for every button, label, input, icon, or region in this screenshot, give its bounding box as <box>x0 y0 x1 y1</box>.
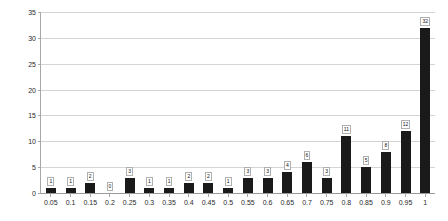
bar-slot: 8 <box>376 12 396 193</box>
bar-slot: 3 <box>238 12 258 193</box>
x-axis-tick <box>228 193 229 197</box>
bar-value-label: 3 <box>323 167 330 176</box>
x-axis-tick-label: 0.9 <box>376 199 396 213</box>
x-axis-tick <box>188 193 189 197</box>
bar-value-label: 3 <box>244 167 251 176</box>
bar-value-label: 0 <box>107 182 114 191</box>
x-axis-tick-label: 0.1 <box>61 199 81 213</box>
bar-value-label: 3 <box>126 167 133 176</box>
bar <box>243 178 253 194</box>
x-axis-tick-slot <box>140 193 160 197</box>
x-axis-tick <box>129 193 130 197</box>
x-axis-ticks <box>41 193 435 197</box>
bar-slot: 1 <box>218 12 238 193</box>
y-axis-tick-label: 35 <box>28 9 36 16</box>
x-axis-tick <box>70 193 71 197</box>
bar-value-label: 3 <box>264 167 271 176</box>
x-axis-tick-slot <box>415 193 435 197</box>
bar-value-label: 2 <box>205 172 212 181</box>
bar-value-label: 8 <box>382 141 389 150</box>
bar-slot: 2 <box>80 12 100 193</box>
bar <box>203 183 213 193</box>
bar-slot: 3 <box>120 12 140 193</box>
bar <box>322 178 332 194</box>
bar-value-label: 1 <box>67 177 74 186</box>
x-axis-tick-slot <box>277 193 297 197</box>
x-axis-tick <box>50 193 51 197</box>
x-axis-tick-label: 0.95 <box>396 199 416 213</box>
x-axis-tick <box>149 193 150 197</box>
x-axis-tick <box>109 193 110 197</box>
x-axis-tick-label: 0.75 <box>317 199 337 213</box>
bar <box>341 136 351 193</box>
x-axis-tick-label: 0.65 <box>277 199 297 213</box>
x-axis-tick-label: 1 <box>415 199 435 213</box>
x-axis-tick-label: 0.6 <box>258 199 278 213</box>
bar-slot: 4 <box>277 12 297 193</box>
x-axis-tick <box>326 193 327 197</box>
bar-slot: 1 <box>140 12 160 193</box>
bar <box>184 183 194 193</box>
y-axis-tick-label: 10 <box>28 138 36 145</box>
x-axis-tick-slot <box>317 193 337 197</box>
bar <box>125 178 135 194</box>
bar-slot: 2 <box>179 12 199 193</box>
bar-value-label: 12 <box>401 120 411 129</box>
x-axis-tick-label: 0.25 <box>120 199 140 213</box>
bar <box>282 172 292 193</box>
bar-chart: 05101520253035 11203112213346311581232 0… <box>0 0 448 221</box>
bar-slot: 3 <box>258 12 278 193</box>
y-axis-tick-label: 0 <box>32 190 36 197</box>
x-axis-tick-label: 0.05 <box>41 199 61 213</box>
bar <box>302 162 312 193</box>
x-axis-tick-label: 0.2 <box>100 199 120 213</box>
x-axis-tick-label: 0.85 <box>356 199 376 213</box>
bar-value-label: 11 <box>342 125 351 134</box>
x-axis-tick-slot <box>159 193 179 197</box>
x-axis-tick <box>169 193 170 197</box>
bar-value-label: 1 <box>146 177 153 186</box>
bar-slot: 3 <box>317 12 337 193</box>
bar <box>85 183 95 193</box>
x-axis-tick-slot <box>297 193 317 197</box>
x-axis-tick-slot <box>120 193 140 197</box>
bar-value-label: 2 <box>185 172 192 181</box>
y-axis-labels: 05101520253035 <box>0 0 36 221</box>
x-axis-tick-slot <box>179 193 199 197</box>
x-axis-tick-label: 0.35 <box>159 199 179 213</box>
x-axis-tick <box>90 193 91 197</box>
x-axis-tick-label: 0.15 <box>80 199 100 213</box>
y-axis-tick-label: 30 <box>28 34 36 41</box>
x-axis-tick <box>366 193 367 197</box>
x-axis-tick-label: 0.5 <box>218 199 238 213</box>
bar-value-label: 1 <box>225 177 232 186</box>
x-axis-tick-label: 0.4 <box>179 199 199 213</box>
x-axis-tick-slot <box>100 193 120 197</box>
x-axis-tick-slot <box>258 193 278 197</box>
x-axis-tick-label: 0.55 <box>238 199 258 213</box>
bar <box>401 131 411 193</box>
bar-value-label: 6 <box>304 151 311 160</box>
x-axis-tick-slot <box>337 193 357 197</box>
x-axis-tick <box>306 193 307 197</box>
y-axis-tick-label: 20 <box>28 86 36 93</box>
bar <box>361 167 371 193</box>
x-axis-tick <box>385 193 386 197</box>
bar-value-label: 1 <box>47 177 54 186</box>
y-axis-tick-label: 25 <box>28 60 36 67</box>
x-axis-tick <box>247 193 248 197</box>
bar-slot: 0 <box>100 12 120 193</box>
x-axis-tick <box>425 193 426 197</box>
bar-value-label: 32 <box>420 17 430 26</box>
x-axis-tick-label: 0.8 <box>337 199 357 213</box>
x-axis-tick-label: 0.45 <box>199 199 219 213</box>
x-axis-tick <box>405 193 406 197</box>
bar-series: 11203112213346311581232 <box>41 12 435 193</box>
bar <box>381 152 391 193</box>
bar-value-label: 2 <box>87 172 94 181</box>
y-axis-tick-label: 5 <box>32 164 36 171</box>
bar-slot: 11 <box>337 12 357 193</box>
x-axis-tick-slot <box>61 193 81 197</box>
x-axis-tick-label: 0.3 <box>140 199 160 213</box>
x-axis-tick-slot <box>41 193 61 197</box>
